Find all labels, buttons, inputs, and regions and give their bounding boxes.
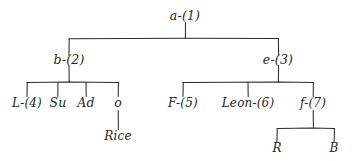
tree-connector-lines (0, 0, 353, 161)
tree-node-leon6: Leon-(6) (222, 97, 275, 109)
tree-node-r: R (272, 142, 281, 154)
tree-node-b: B (329, 142, 338, 154)
tree-node-l4: L-(4) (12, 97, 42, 109)
tree-diagram-canvas: a-(1) b-(2) e-(3) L-(4) Su Ad o Rice F-(… (0, 0, 353, 161)
tree-node-su: Su (49, 97, 66, 110)
edge-level1-bus (69, 38, 279, 39)
tree-node-a1: a-(1) (170, 10, 200, 23)
tree-node-o: o (114, 97, 122, 110)
tree-node-f5: F-(5) (168, 97, 198, 109)
edge-f7-bus (277, 128, 335, 129)
tree-node-f7: f-(7) (300, 97, 326, 109)
edge-e3-bus (183, 82, 314, 83)
tree-node-rice: Rice (104, 130, 132, 142)
tree-node-ad: Ad (77, 97, 94, 110)
tree-node-e3: e-(3) (263, 54, 293, 67)
tree-node-b2: b-(2) (54, 54, 85, 67)
edge-b2-bus (27, 82, 119, 83)
